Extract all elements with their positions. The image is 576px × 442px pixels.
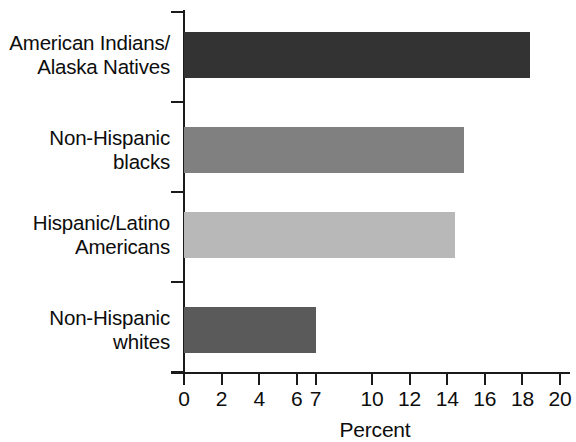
category-tick	[171, 101, 184, 103]
category-tick	[171, 11, 184, 13]
category-label-non-hispanic-blacks: Non-Hispanic blacks	[0, 126, 170, 174]
value-axis-tick	[409, 374, 411, 385]
value-axis-tick	[446, 374, 448, 385]
value-axis-tick	[559, 374, 561, 385]
value-axis-tick-label: 20	[549, 386, 572, 411]
value-axis-tick	[521, 374, 523, 385]
x-axis-title: Percent	[0, 417, 576, 442]
category-tick	[171, 191, 184, 193]
category-tick	[171, 371, 184, 373]
value-axis-tick	[183, 374, 185, 385]
value-axis-tick	[296, 374, 298, 385]
value-axis-tick	[258, 374, 260, 385]
bar-non-hispanic-whites	[184, 307, 316, 353]
bar-american-indians-alaska-natives	[184, 32, 530, 78]
value-axis-tick-label: 7	[310, 386, 321, 411]
value-axis-tick-label: 16	[473, 386, 496, 411]
value-axis-tick-label: 0	[178, 386, 189, 411]
value-axis-tick-label: 4	[253, 386, 264, 411]
bar-non-hispanic-blacks	[184, 127, 464, 173]
category-label-hispanic-latino-americans: Hispanic/Latino Americans	[0, 211, 170, 259]
category-label-non-hispanic-whites: Non-Hispanic whites	[0, 306, 170, 354]
value-axis-tick-label: 12	[398, 386, 421, 411]
value-axis-tick-label: 14	[436, 386, 459, 411]
category-tick	[171, 281, 184, 283]
value-axis-tick	[221, 374, 223, 385]
value-axis-tick	[371, 374, 373, 385]
value-axis-tick	[315, 374, 317, 385]
value-axis-tick	[484, 374, 486, 385]
category-label-american-indians-alaska-natives: American Indians/ Alaska Natives	[0, 31, 170, 79]
value-axis-tick-label: 10	[361, 386, 384, 411]
value-axis-tick-label: 18	[511, 386, 534, 411]
value-axis-tick-label: 2	[216, 386, 227, 411]
bar-hispanic-latino-americans	[184, 212, 455, 258]
value-axis-tick-label: 6	[291, 386, 302, 411]
